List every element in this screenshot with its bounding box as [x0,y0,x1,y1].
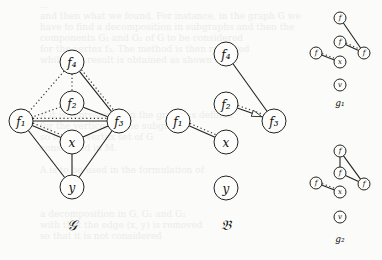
node-label: y [68,181,76,195]
dotted-edge-f2-f1 [32,107,60,117]
node-label: f₂ [220,98,230,112]
edge-f2-f3 [83,107,108,116]
edge-f2-f3 [345,175,358,181]
node-y: v [334,79,346,91]
graph-g1: ffffxvg₁ [310,12,370,108]
node-label: f₃ [113,115,123,129]
edge-f3-y [79,131,112,177]
node-label: f₂ [66,97,76,111]
graph-G: f₄f₂f₁f₃xy𝒢 [9,50,131,233]
node-f2: f₂ [214,92,238,116]
node-f3: f₃ [107,109,131,133]
node-label: x [69,136,76,150]
node-f3: f₃ [262,109,286,133]
node-y: y [60,175,84,199]
node-label: x [223,136,230,150]
node-f2: f₂ [60,91,84,115]
edge-f1-y [28,130,64,177]
graph-label-G: 𝒢 [67,217,79,233]
graph-g2: ffffxvg₂ [310,145,370,244]
node-label: x [338,58,342,66]
node-f2: f [334,36,346,48]
node-f4: f₄ [214,42,238,66]
node-label: f₃ [268,115,278,129]
node-label: x [338,188,342,196]
dotted-edge-f4-f3 [82,70,114,110]
node-x: x [214,130,238,154]
graph-B: f₄f₂f₃f₁xy𝔅 [166,42,286,233]
node-f4: f [334,145,346,157]
node-f1: f [310,177,322,189]
graph-label-g1: g₁ [335,98,344,108]
graph-label-g2: g₂ [335,234,345,244]
node-x: x [60,130,84,154]
graph-decomposition-diagram: f₄f₂f₁f₃xy𝒢 f₄f₂f₃f₁xy𝔅 ffffxvg₁ ffffxvg… [0,0,382,260]
node-label: y [222,182,230,196]
dotted-edge-f1-x [190,123,216,134]
edge-f4-f3 [79,71,111,111]
node-f3: f [358,47,370,59]
edge-f1-x [322,55,335,60]
node-f4: f₄ [60,50,84,74]
node-label: f₁ [172,115,182,129]
node-f1: f [310,47,322,59]
node-y: y [214,176,238,200]
node-label: f₄ [220,48,230,62]
graph-label-B: 𝔅 [221,217,233,233]
edge-x-f3 [83,126,108,137]
edge-f1-x [322,185,335,190]
node-label: v [338,81,342,89]
node-f4: f [334,12,346,24]
node-x: x [334,56,346,68]
node-f3: f [358,178,370,190]
edge-f2-f3 [345,44,358,50]
node-label: f₄ [66,56,76,70]
edge-f1-x [32,126,61,138]
dotted-edge-f4-f1 [29,71,64,112]
node-f2: f [334,167,346,179]
edge-f1-x [189,126,215,137]
node-f1: f₁ [9,109,33,133]
node-label: v [338,213,342,221]
node-label: f₁ [15,115,25,129]
dotted-edge-f1-x [33,123,62,135]
node-x: x [334,186,346,198]
node-f1: f₁ [166,109,190,133]
node-y: v [334,211,346,223]
